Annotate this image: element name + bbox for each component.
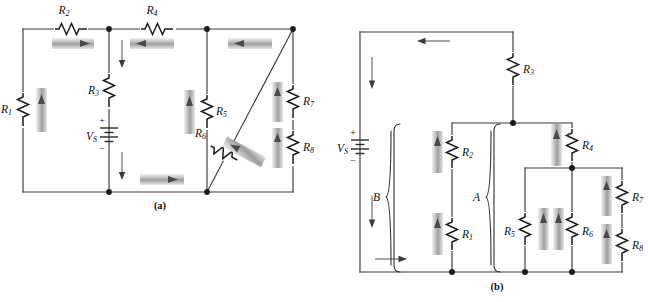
brace-group-b [386, 131, 391, 265]
panel-a-caption: (a) [154, 200, 167, 212]
current-arrow-r1-up-b [432, 213, 443, 255]
node-top-corner-a [290, 26, 296, 32]
panel-a-wires [23, 29, 293, 192]
label-r1-a: R1 [0, 103, 12, 117]
current-arrow-r7-up-a [272, 82, 283, 122]
resistor-r2-b [445, 135, 459, 169]
label-r2-b: R2 [461, 146, 473, 160]
resistor-r3-b [506, 52, 520, 86]
label-vs-a: VS [86, 130, 97, 144]
current-arrow-bottom-right-a [140, 174, 184, 185]
label-r4-a: R4 [145, 4, 157, 18]
current-arrow-r6-up-b [553, 208, 564, 250]
resistor-r6-b [565, 212, 579, 246]
current-arrow-top-rail-left-b [417, 38, 450, 44]
panel-b: + − VS R3 R2 R1 R4 R5 [337, 32, 644, 293]
figure-canvas: R2 R4 R1 R3 + − VS [0, 0, 648, 302]
source-minus-a: − [99, 143, 105, 154]
node-mid-bus-b [510, 120, 516, 126]
resistor-r1-b [445, 217, 459, 251]
node-bottom-mid-a [106, 189, 112, 195]
current-arrow-r8-up-a [272, 128, 283, 168]
current-arrow-r3-upper-down-a [119, 40, 125, 68]
label-r5-b: R5 [503, 225, 515, 239]
current-arrow-r2-up-b [432, 131, 443, 173]
source-minus-b: − [350, 155, 356, 166]
circuit-diagram-svg: R2 R4 R1 R3 + − VS [0, 0, 648, 302]
node-top-mid-a [106, 26, 112, 32]
resistor-r8-a [286, 130, 300, 166]
label-vs-b: VS [337, 142, 348, 156]
source-plus-a: + [99, 115, 105, 126]
label-r3-b: R3 [522, 63, 534, 77]
resistor-r4-a [140, 22, 176, 36]
current-arrow-r4-up-b [551, 124, 562, 166]
current-arrow-top-right-left-a [228, 38, 272, 49]
panel-b-caption: (b) [491, 281, 504, 293]
source-plus-b: + [350, 127, 356, 138]
bracket-group-b [394, 124, 400, 272]
current-arrow-r2-right-a [52, 38, 94, 49]
label-r2-a: R2 [57, 4, 69, 18]
node-top-right-a [204, 26, 210, 32]
node-bottom-r1-b [449, 269, 455, 275]
resistor-r3-a [102, 73, 116, 109]
current-arrow-r4-left-a [130, 38, 174, 49]
node-lower-bus-b [569, 165, 575, 171]
node-bottom-right-a [204, 189, 210, 195]
label-r7-a: R7 [302, 95, 315, 109]
resistor-r5-a [200, 94, 214, 130]
label-r7-b: R7 [631, 191, 644, 205]
node-bottom-r6-b [569, 269, 575, 275]
label-r3-a: R3 [87, 84, 99, 98]
current-arrow-r1-up-a [36, 88, 47, 132]
current-arrow-r7-up-b [601, 176, 612, 216]
resistor-r1-a [16, 92, 30, 128]
label-r8-b: R8 [631, 239, 643, 253]
current-arrow-r5-up-a [184, 90, 195, 134]
label-r8-a: R8 [302, 141, 314, 155]
resistor-r8-b [615, 228, 629, 262]
resistor-r2-a [54, 22, 88, 36]
node-bottom-r5-b [522, 269, 528, 275]
current-arrow-source-upper-down-b [369, 57, 375, 89]
label-group-a: A [472, 191, 481, 203]
panel-a: R2 R4 R1 R3 + − VS [0, 4, 315, 212]
label-group-b: B [373, 191, 380, 203]
current-arrow-r3-lower-down-a [119, 152, 125, 180]
current-arrow-r8-up-b [601, 224, 612, 264]
label-r6-b: R6 [581, 225, 593, 239]
resistor-r4-b [565, 128, 579, 162]
resistor-r7-a [286, 84, 300, 120]
resistor-r7-b [615, 180, 629, 214]
resistor-r5-b [518, 212, 532, 246]
current-arrow-r5-up-b [538, 208, 549, 250]
bracket-group-a [494, 124, 500, 272]
brace-group-a [486, 131, 491, 265]
label-r4-b: R4 [581, 139, 593, 153]
label-r5-a: R5 [215, 105, 227, 119]
label-r1-b: R1 [461, 228, 473, 242]
